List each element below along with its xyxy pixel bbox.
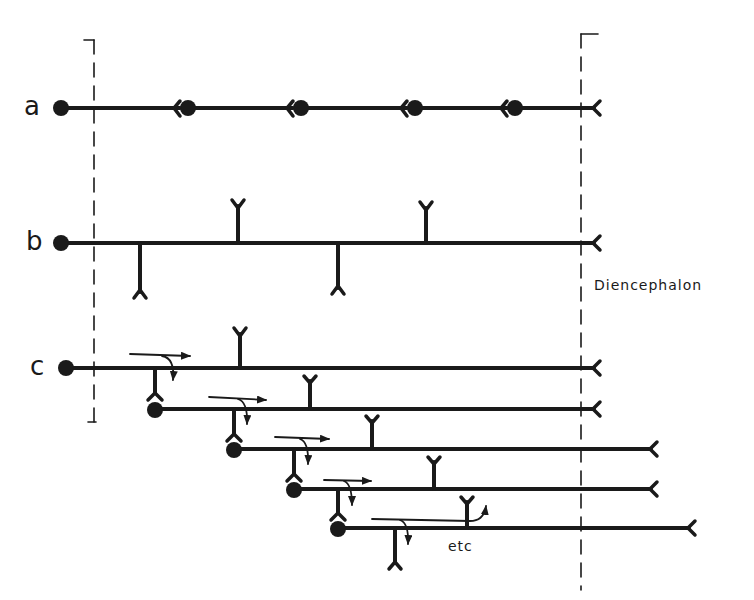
row-b-soma	[53, 235, 69, 251]
diencephalon-boundary	[581, 34, 598, 590]
region-label-diencephalon: Diencephalon	[594, 277, 702, 293]
row-label-c: c	[30, 353, 44, 379]
left-boundary	[84, 40, 96, 422]
neuron-diagram	[0, 0, 754, 600]
row-label-b: b	[26, 228, 43, 254]
row-label-a: a	[24, 93, 40, 119]
row-c-cascade	[66, 328, 695, 569]
row-b-axon	[60, 200, 600, 298]
continuation-label: etc	[448, 538, 473, 554]
